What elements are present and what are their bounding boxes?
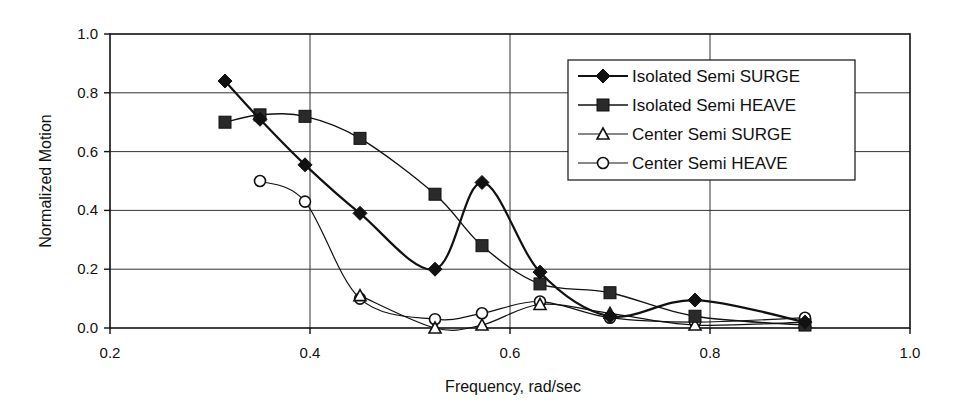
legend: Isolated Semi SURGEIsolated Semi HEAVECe… xyxy=(568,60,855,180)
diamond-marker-icon xyxy=(428,262,442,276)
diamond-marker-icon xyxy=(688,293,702,307)
y-tick-label: 0.8 xyxy=(77,84,98,101)
diamond-marker-icon xyxy=(475,175,489,189)
x-tick-label: 1.0 xyxy=(900,344,921,361)
legend-label: Center Semi HEAVE xyxy=(632,154,788,173)
y-tick-label: 0.0 xyxy=(77,319,98,336)
line-chart: 0.00.20.40.60.81.00.20.40.60.81.0 Freque… xyxy=(0,0,963,420)
x-tick-label: 0.2 xyxy=(100,344,121,361)
square-marker-icon xyxy=(219,116,231,128)
y-tick-label: 0.2 xyxy=(77,260,98,277)
circle-marker-icon xyxy=(300,196,311,207)
x-tick-label: 0.8 xyxy=(700,344,721,361)
x-tick-label: 0.6 xyxy=(500,344,521,361)
y-tick-label: 0.4 xyxy=(77,201,98,218)
square-marker-icon xyxy=(299,110,311,122)
square-marker-icon xyxy=(604,287,616,299)
series-line xyxy=(260,181,805,322)
legend-label: Center Semi SURGE xyxy=(632,125,792,144)
circle-marker-icon xyxy=(255,176,266,187)
triangle-marker-icon xyxy=(476,319,488,330)
x-axis-title: Frequency, rad/sec xyxy=(445,378,581,395)
x-tick-label: 0.4 xyxy=(300,344,321,361)
square-marker-icon xyxy=(354,132,366,144)
square-marker-icon xyxy=(689,310,701,322)
y-tick-label: 1.0 xyxy=(77,25,98,42)
circle-marker-icon xyxy=(598,158,609,169)
legend-label: Isolated Semi HEAVE xyxy=(632,96,796,115)
square-marker-icon xyxy=(597,99,609,111)
circle-marker-icon xyxy=(477,308,488,319)
y-tick-label: 0.6 xyxy=(77,143,98,160)
series-line xyxy=(360,296,805,331)
square-marker-icon xyxy=(476,240,488,252)
square-marker-icon xyxy=(429,188,441,200)
legend-label: Isolated Semi SURGE xyxy=(632,67,800,86)
y-axis-title: Normalized Motion xyxy=(37,114,54,247)
